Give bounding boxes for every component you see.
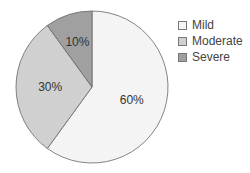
slice-label-moderate: 30% — [38, 80, 62, 94]
legend-item-severe: Severe — [178, 49, 243, 65]
legend: Mild Moderate Severe — [178, 17, 243, 65]
slice-label-mild: 60% — [120, 93, 144, 107]
legend-item-mild: Mild — [178, 17, 243, 33]
legend-item-moderate: Moderate — [178, 33, 243, 49]
legend-swatch-moderate — [178, 37, 187, 46]
slice-label-severe: 10% — [65, 35, 89, 49]
legend-swatch-severe — [178, 53, 187, 62]
legend-swatch-mild — [178, 21, 187, 30]
